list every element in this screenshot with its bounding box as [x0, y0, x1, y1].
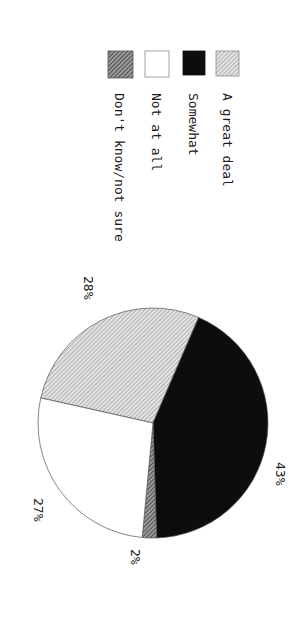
- legend-swatch-hatch-dark: [108, 51, 133, 78]
- label-not-at-all-pct: 27%: [31, 498, 46, 522]
- legend-item-great-deal: A great deal: [216, 51, 239, 187]
- legend-item-somewhat: Somewhat: [183, 51, 205, 156]
- legend-label: Somewhat: [186, 93, 201, 156]
- label-dont-know-pct: 2%: [128, 549, 143, 565]
- legend-swatch-white: [145, 51, 169, 77]
- pie-slice-not-at-all: [38, 398, 153, 538]
- label-great-deal-pct: 28%: [81, 276, 96, 300]
- legend-swatch-hatch-light: [216, 51, 239, 76]
- legend-item-not-at-all: Not at all: [145, 51, 169, 171]
- label-somewhat-pct: 43%: [273, 462, 288, 486]
- legend-item-dont-know: Don't know/not sure: [108, 51, 133, 242]
- legend-label: A great deal: [220, 93, 235, 187]
- legend-label: Not at all: [149, 93, 164, 171]
- legend-label: Don't know/not sure: [112, 93, 127, 242]
- legend-swatch-solid-black: [183, 51, 205, 75]
- pie-slices: [38, 308, 268, 538]
- legend: A great deal Somewhat Not at all Don't k…: [108, 51, 239, 242]
- pie-chart: A great deal Somewhat Not at all Don't k…: [0, 0, 305, 620]
